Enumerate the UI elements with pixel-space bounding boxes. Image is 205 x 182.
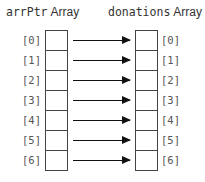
- right-index-label: [5]: [161, 130, 180, 150]
- right-array-cell: [136, 91, 157, 111]
- pointer-arrow: [73, 60, 130, 61]
- left-array-cell: [46, 31, 67, 51]
- left-array-cell: [46, 151, 67, 171]
- left-index-label: [2]: [22, 70, 41, 90]
- left-index-label: [5]: [22, 130, 41, 150]
- left-array-cell: [46, 91, 67, 111]
- right-array-cell: [136, 51, 157, 71]
- right-array-cell: [136, 31, 157, 51]
- left-index-label: [6]: [22, 150, 41, 170]
- left-array-title: arrPtr Array: [6, 5, 79, 20]
- pointer-arrow: [73, 100, 130, 101]
- right-array-cell: [136, 131, 157, 151]
- pointer-arrow: [73, 80, 130, 81]
- left-index-label: [1]: [22, 50, 41, 70]
- pointer-arrow: [73, 40, 130, 41]
- right-array-cell: [136, 151, 157, 171]
- left-array-suffix: Array: [51, 5, 80, 19]
- left-index-label: [0]: [22, 30, 41, 50]
- right-index-label: [2]: [161, 70, 180, 90]
- right-index-label: [1]: [161, 50, 180, 70]
- right-array-suffix: Array: [173, 5, 202, 19]
- left-array-name: arrPtr: [6, 5, 48, 19]
- right-index-label: [0]: [161, 30, 180, 50]
- pointer-arrow: [73, 120, 130, 121]
- left-array-cell: [46, 131, 67, 151]
- right-array-cell: [136, 71, 157, 91]
- right-index-label: [4]: [161, 110, 180, 130]
- right-index-label: [3]: [161, 90, 180, 110]
- left-index-label: [4]: [22, 110, 41, 130]
- left-array-cell: [46, 51, 67, 71]
- pointer-arrow: [73, 160, 130, 161]
- left-array-column: [45, 30, 68, 171]
- pointer-arrow: [73, 140, 130, 141]
- left-array-cell: [46, 71, 67, 91]
- right-index-label: [6]: [161, 150, 180, 170]
- right-array-name: donations: [108, 5, 170, 19]
- right-array-cell: [136, 111, 157, 131]
- right-array-column: [135, 30, 158, 171]
- right-array-title: donations Array: [108, 5, 202, 20]
- left-index-label: [3]: [22, 90, 41, 110]
- left-array-cell: [46, 111, 67, 131]
